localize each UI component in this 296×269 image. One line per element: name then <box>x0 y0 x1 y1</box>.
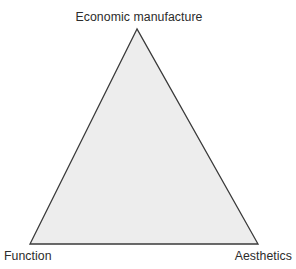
triangle-diagram: Economic manufacture Function Aesthetics <box>0 0 296 269</box>
vertex-label-economic-manufacture: Economic manufacture <box>0 11 278 23</box>
triangle-graphic <box>0 0 296 269</box>
triangle-shape <box>30 29 258 244</box>
vertex-label-aesthetics: Aesthetics <box>0 250 292 262</box>
